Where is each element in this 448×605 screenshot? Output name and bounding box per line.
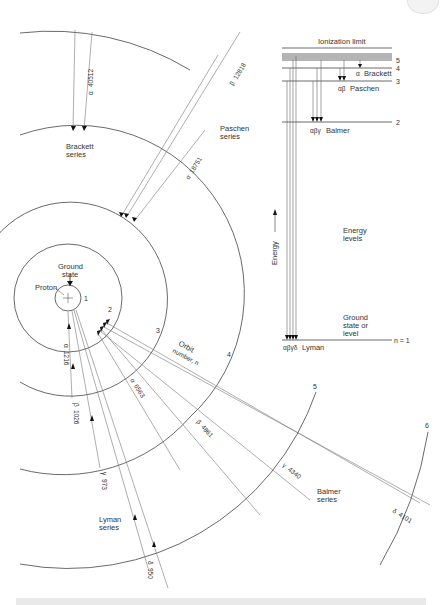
brackett-alpha-label: α 40512 [87, 69, 94, 95]
lyman-gamma-label: γ 973 [100, 472, 108, 490]
paschen-symbol: αβ [338, 85, 346, 93]
level-4-label: 4 [396, 65, 400, 72]
svg-text:40512: 40512 [87, 69, 94, 87]
svg-text:β: β [228, 79, 237, 87]
brackett-series-label-2: series [66, 150, 86, 159]
lyman-delta-label: δ 950 [147, 561, 154, 579]
orbit-4 [20, 125, 244, 474]
energy-arrowhead-icon [273, 209, 277, 215]
svg-text:950: 950 [147, 568, 154, 579]
svg-text:4340: 4340 [287, 466, 303, 481]
bottom-scrollbar[interactable] [16, 598, 426, 605]
orbit-number-4: 4 [227, 351, 231, 358]
lyman-level-label: Lyman [302, 343, 324, 352]
energy-levels-label-2: levels [343, 234, 362, 243]
svg-text:1026: 1026 [73, 410, 80, 425]
svg-text:4861: 4861 [200, 423, 215, 439]
svg-text:973: 973 [101, 479, 108, 490]
svg-text:δ: δ [147, 561, 154, 565]
orbit-5-top [20, 31, 190, 70]
level-2-label: 2 [396, 119, 400, 126]
brackett-level-label: Brackett [364, 69, 392, 78]
level-3-label: 3 [396, 78, 400, 85]
paschen-series-label-2: series [220, 132, 240, 141]
balmer-alpha-label: α 6563 [129, 377, 147, 399]
balmer-series-label-2: series [317, 495, 337, 504]
brackett-symbol: α [356, 70, 360, 77]
svg-text:α: α [87, 91, 94, 95]
balmer-symbol: αβγ [310, 127, 321, 135]
balmer-level-label: Balmer [326, 126, 350, 135]
ground-state-label-2: state [62, 270, 78, 279]
ground-level-label-3: level [343, 329, 359, 338]
svg-text:12818: 12818 [232, 61, 248, 80]
lyman-symbol: αβγδ [283, 344, 298, 352]
svg-text:β: β [72, 403, 80, 407]
lyman-beta-label: β 1026 [72, 403, 80, 425]
paschen-level-label: Paschen [350, 84, 379, 93]
svg-text:α: α [184, 173, 192, 180]
lyman-series-label-2: series [99, 523, 119, 532]
lyman-alpha-label: α 1216 [63, 344, 70, 366]
orbit-number-6: 6 [425, 422, 429, 429]
orbit-number-2: 2 [108, 306, 112, 313]
energy-level-diagram: Ionization limit 5 4 3 2 n = 1 [270, 37, 410, 352]
orbit-number-5: 5 [313, 383, 317, 390]
ionization-limit-label: Ionization limit [318, 37, 366, 46]
proton-label: Proton [35, 283, 57, 292]
svg-text:α: α [129, 377, 137, 384]
balmer-delta-label: δ 4101 [391, 507, 413, 525]
svg-text:18751: 18751 [188, 155, 204, 174]
energy-axis-label: Energy [270, 241, 279, 265]
svg-text:6563: 6563 [133, 383, 147, 399]
svg-text:1216: 1216 [63, 351, 70, 366]
paschen-alpha-label: α 18751 [184, 155, 203, 180]
level-5-label: 5 [396, 57, 400, 64]
paschen-beta-label: β 12818 [228, 61, 248, 87]
svg-text:α: α [63, 344, 70, 348]
balmer-gamma-label: γ 4340 [281, 461, 303, 481]
svg-text:4101: 4101 [397, 511, 413, 525]
hydrogen-spectrum-diagram: Ground state Proton Orbit number, n 1 2 … [0, 0, 448, 605]
orbit-6 [380, 432, 428, 565]
level-1-label: n = 1 [394, 337, 410, 344]
svg-text:δ: δ [391, 507, 398, 515]
orbit-number-1: 1 [84, 295, 88, 302]
orbit-diagram: Ground state Proton Orbit number, n 1 2 … [0, 30, 430, 588]
orbit-number-3: 3 [156, 327, 160, 334]
svg-text:γ: γ [100, 472, 108, 476]
